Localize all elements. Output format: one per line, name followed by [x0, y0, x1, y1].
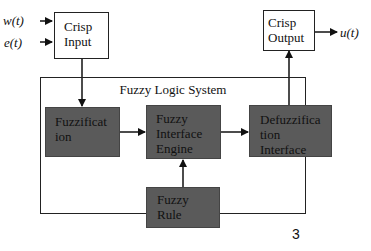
crisp-input-line2: Input [55, 34, 108, 49]
defuzz-line1: Defuzzifica [250, 106, 331, 127]
defuzzification-interface-block: Defuzzifica tion Interface [249, 105, 332, 157]
crisp-output-block: Crisp Output [263, 10, 315, 51]
inference-line2: Interface [147, 126, 220, 141]
rule-line2: Rule [147, 207, 219, 222]
fuzzy-rule-block: Fuzzy Rule [146, 187, 220, 228]
fuzzy-inference-engine-block: Fuzzy Interface Engine [146, 105, 221, 159]
fuzzification-block: Fuzzificat ion [45, 107, 120, 157]
crisp-output-line1: Crisp [264, 11, 314, 30]
inference-line1: Fuzzy [147, 106, 220, 126]
crisp-input-line1: Crisp [55, 13, 108, 34]
defuzz-line3: Interface [250, 142, 331, 157]
page-number: 3 [292, 226, 300, 242]
rule-line1: Fuzzy [147, 188, 219, 207]
inference-line3: Engine [147, 141, 220, 156]
input-signal-e: e(t) [4, 35, 22, 51]
crisp-output-line2: Output [264, 30, 314, 45]
output-signal-u: u(t) [340, 25, 359, 41]
fuzzification-line1: Fuzzificat [46, 108, 119, 129]
crisp-input-block: Crisp Input [54, 12, 109, 59]
fuzzification-line2: ion [46, 129, 119, 144]
system-title: Fuzzy Logic System [40, 82, 306, 97]
defuzz-line2: tion [250, 127, 331, 142]
input-signal-w: w(t) [3, 13, 24, 29]
